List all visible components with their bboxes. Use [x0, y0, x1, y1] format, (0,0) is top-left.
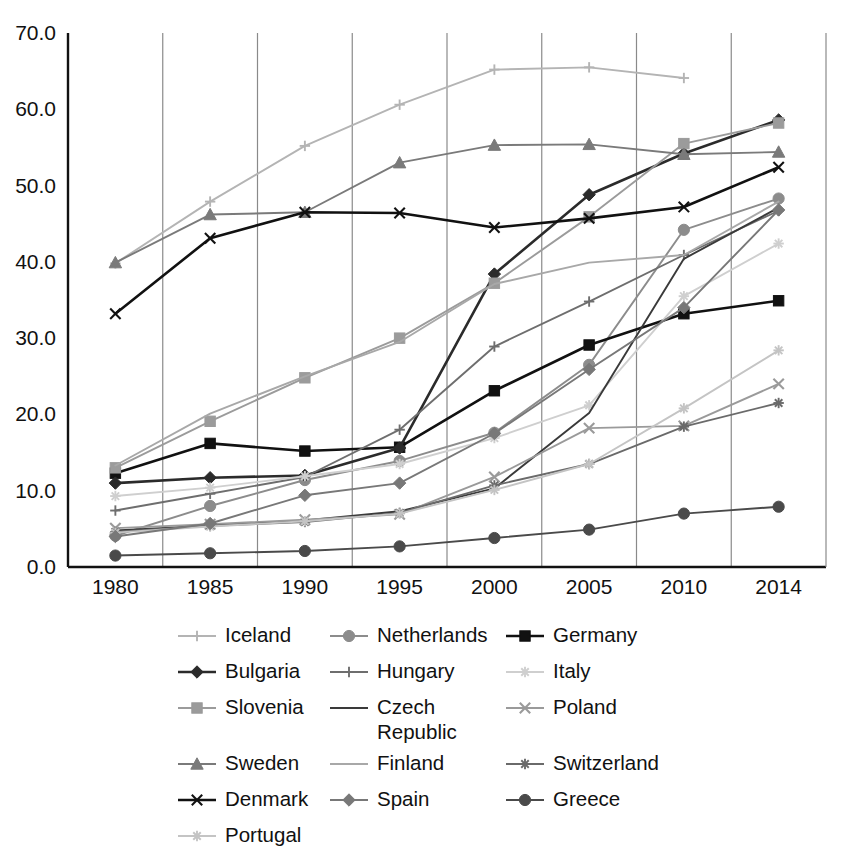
- legend-swatch-hungary: [328, 661, 370, 683]
- legend-item-iceland[interactable]: Iceland: [176, 622, 328, 652]
- legend-item-germany[interactable]: Germany: [504, 622, 704, 652]
- legend-item-bulgaria[interactable]: Bulgaria: [176, 658, 328, 688]
- legend-swatch-switzerland: [504, 753, 546, 775]
- legend-label-spain: Spain: [377, 786, 429, 811]
- y-tick-label: 0.0: [27, 555, 56, 578]
- legend-item-hungary[interactable]: Hungary: [328, 658, 504, 688]
- x-tick-label: 1985: [187, 575, 234, 598]
- legend-label-sweden: Sweden: [225, 750, 299, 775]
- legend-label-switzerland: Switzerland: [553, 750, 659, 775]
- y-axis-ticks: 0.010.020.030.040.050.060.070.0: [15, 21, 56, 578]
- legend-item-denmark[interactable]: Denmark: [176, 786, 328, 816]
- x-tick-label: 2014: [755, 575, 802, 598]
- legend-item-poland[interactable]: Poland: [504, 694, 704, 724]
- legend-label-netherlands: Netherlands: [377, 622, 488, 647]
- y-tick-label: 70.0: [15, 21, 56, 44]
- legend-item-empty: [504, 822, 704, 852]
- legend-swatch-bulgaria: [176, 661, 218, 683]
- legend-item-greece[interactable]: Greece: [504, 786, 704, 816]
- legend-item-italy[interactable]: Italy: [504, 658, 704, 688]
- legend-label-czech-republic: Czech Republic: [377, 694, 457, 744]
- x-tick-label: 1995: [376, 575, 423, 598]
- x-tick-label: 2005: [566, 575, 613, 598]
- x-tick-label: 1990: [282, 575, 329, 598]
- legend-swatch-finland: [328, 753, 370, 775]
- legend-label-denmark: Denmark: [225, 786, 308, 811]
- y-tick-label: 30.0: [15, 326, 56, 349]
- legend-item-switzerland[interactable]: Switzerland: [504, 750, 704, 780]
- legend-label-finland: Finland: [377, 750, 444, 775]
- y-tick-label: 60.0: [15, 97, 56, 120]
- legend-swatch-greece: [504, 789, 546, 811]
- x-tick-label: 1980: [92, 575, 139, 598]
- legend-item-empty: [328, 822, 504, 852]
- chart-svg: 0.010.020.030.040.050.060.070.0198019851…: [0, 0, 842, 610]
- y-tick-label: 50.0: [15, 174, 56, 197]
- chart-legend: IcelandNetherlandsGermanyBulgariaHungary…: [176, 622, 776, 852]
- legend-label-slovenia: Slovenia: [225, 694, 304, 719]
- legend-label-portugal: Portugal: [225, 822, 301, 847]
- legend-label-germany: Germany: [553, 622, 637, 647]
- legend-item-spain[interactable]: Spain: [328, 786, 504, 816]
- legend-swatch-slovenia: [176, 697, 218, 719]
- legend-label-italy: Italy: [553, 658, 591, 683]
- legend-item-czech-republic[interactable]: Czech Republic: [328, 694, 504, 744]
- legend-swatch-italy: [504, 661, 546, 683]
- legend-label-greece: Greece: [553, 786, 620, 811]
- line-chart: 0.010.020.030.040.050.060.070.0198019851…: [0, 0, 842, 610]
- legend-swatch-poland: [504, 697, 546, 719]
- legend-swatch-portugal: [176, 825, 218, 847]
- legend-label-bulgaria: Bulgaria: [225, 658, 300, 683]
- x-tick-label: 2010: [661, 575, 708, 598]
- legend-swatch-spain: [328, 789, 370, 811]
- legend-swatch-czech-republic: [328, 697, 370, 719]
- x-axis-ticks: 19801985199019952000200520102014: [92, 575, 802, 598]
- legend-label-poland: Poland: [553, 694, 617, 719]
- legend-label-iceland: Iceland: [225, 622, 291, 647]
- y-tick-label: 20.0: [15, 402, 56, 425]
- x-tick-label: 2000: [471, 575, 518, 598]
- legend-label-hungary: Hungary: [377, 658, 455, 683]
- y-tick-label: 40.0: [15, 250, 56, 273]
- legend-swatch-sweden: [176, 753, 218, 775]
- legend-swatch-germany: [504, 625, 546, 647]
- legend-swatch-netherlands: [328, 625, 370, 647]
- legend-item-portugal[interactable]: Portugal: [176, 822, 328, 852]
- legend-swatch-iceland: [176, 625, 218, 647]
- legend-item-sweden[interactable]: Sweden: [176, 750, 328, 780]
- chart-page: 0.010.020.030.040.050.060.070.0198019851…: [0, 0, 842, 855]
- legend-swatch-denmark: [176, 789, 218, 811]
- y-tick-label: 10.0: [15, 479, 56, 502]
- legend-item-finland[interactable]: Finland: [328, 750, 504, 780]
- legend-item-netherlands[interactable]: Netherlands: [328, 622, 504, 652]
- legend-item-slovenia[interactable]: Slovenia: [176, 694, 328, 724]
